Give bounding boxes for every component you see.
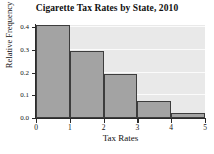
y-tick-0.3 [32, 50, 35, 51]
y-axis-label: Relative Frequency [4, 0, 14, 85]
bar-2-3 [104, 74, 138, 118]
x-axis-line [35, 118, 206, 119]
x-tick-3 [137, 119, 138, 123]
y-tick-0.0 [32, 118, 35, 119]
x-tick-2 [104, 119, 105, 123]
x-tick-label-1: 1 [63, 123, 77, 132]
x-tick-4 [171, 119, 172, 123]
x-tick-label-3: 3 [130, 123, 144, 132]
chart-figure: Cigarette Tax Rates by State, 2010 0.0 0… [0, 0, 214, 154]
x-tick-5 [205, 119, 206, 123]
x-axis-label: Tax Rates [36, 133, 205, 143]
bar-1-2 [70, 51, 104, 118]
y-tick-0.2 [32, 73, 35, 74]
bar-3-4 [137, 101, 171, 118]
plot-area [36, 25, 205, 118]
y-tick-label-1: 0.1 [5, 91, 29, 99]
y-tick-label-0: 0.0 [5, 114, 29, 122]
bar-0-1 [36, 25, 70, 118]
chart-title: Cigarette Tax Rates by State, 2010 [0, 3, 214, 13]
x-tick-1 [70, 119, 71, 123]
x-tick-label-4: 4 [164, 123, 178, 132]
y-axis-line [35, 24, 36, 119]
y-tick-0.4 [32, 27, 35, 28]
x-tick-label-2: 2 [97, 123, 111, 132]
y-tick-0.1 [32, 95, 35, 96]
x-tick-0 [36, 119, 37, 123]
x-tick-label-0: 0 [29, 123, 43, 132]
x-tick-label-5: 5 [198, 123, 212, 132]
